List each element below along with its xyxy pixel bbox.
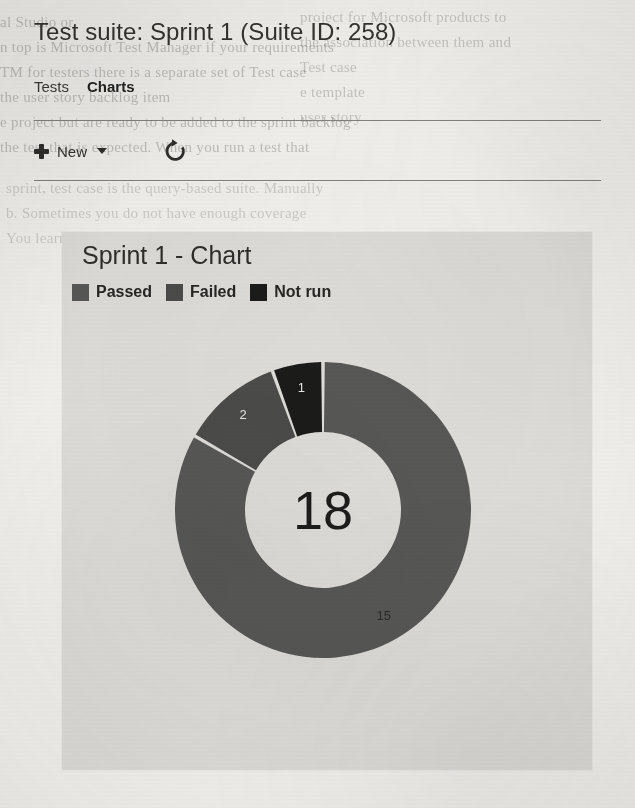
screenshot-page: al Studio or n top is Microsoft Test Man… (0, 0, 635, 808)
new-button[interactable]: New (34, 143, 107, 160)
plus-icon (34, 144, 49, 159)
ghost-line: b. Sometimes you do not have enough cove… (6, 201, 324, 226)
chevron-down-icon[interactable] (97, 148, 107, 154)
donut-chart-area: 1521 18 (62, 232, 592, 770)
page-title: Test suite: Sprint 1 (Suite ID: 258) (34, 18, 396, 46)
donut-slice-label-passed: 15 (376, 608, 390, 623)
ghost-line: e template (300, 80, 511, 105)
refresh-icon (163, 138, 187, 164)
tab-charts[interactable]: Charts (87, 78, 135, 95)
divider-under-toolbar (34, 180, 601, 181)
chart-card: Sprint 1 - Chart Passed Failed Not run 1… (62, 232, 592, 770)
new-button-label: New (57, 143, 87, 160)
donut-slice-label-not-run: 1 (298, 380, 305, 395)
divider-under-tabs (34, 120, 601, 121)
ghost-line: user story (300, 105, 511, 130)
ghost-line: e project but are ready to be added to t… (0, 110, 351, 135)
toolbar: New (34, 134, 187, 168)
tab-bar: Tests Charts (34, 78, 135, 95)
tab-tests[interactable]: Tests (34, 78, 69, 95)
refresh-button[interactable] (163, 138, 187, 164)
donut-chart: 1521 18 (173, 360, 473, 660)
donut-slice-label-failed: 2 (240, 407, 247, 422)
donut-center-total: 18 (293, 480, 353, 540)
ghost-line: Test case (300, 55, 511, 80)
